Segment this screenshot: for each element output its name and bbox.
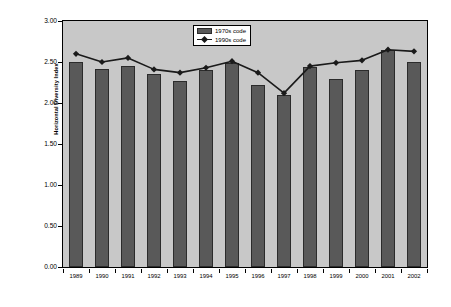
line-marker: 1989: 2.60 [73,51,79,57]
y-tick-label: 2.50 [28,59,57,66]
x-tick-label: 1995 [219,274,245,280]
x-tick-label: 1998 [297,274,323,280]
x-tick-label: 2002 [401,274,427,280]
x-tick-mark [219,269,220,273]
x-tick-mark [349,269,350,273]
x-tick-label: 1997 [271,274,297,280]
line-marker: 2000: 2.52 [359,57,365,63]
line-marker: 1991: 2.55 [125,55,131,61]
line-marker: 1994: 2.43 [203,65,209,71]
x-tick-label: 2001 [375,274,401,280]
x-tick-mark [89,269,90,273]
x-tick-mark [167,269,168,273]
line-marker: 1993: 2.37 [177,70,183,76]
line-marker: 1992: 2.41 [151,66,157,72]
x-tick-mark [271,269,272,273]
x-tick-mark [401,269,402,273]
line-marker: 1995: 2.51 [229,58,235,64]
chart-container: Horizontal Diversity Index 0.000.501.001… [0,0,451,307]
bar-swatch-icon [197,28,212,34]
x-tick-label: 1990 [89,274,115,280]
x-tick-mark [297,269,298,273]
x-tick-label: 1991 [115,274,141,280]
x-tick-label: 1989 [63,274,89,280]
x-tick-mark [245,269,246,273]
x-tick-label: 2000 [349,274,375,280]
chart-legend: 1970s code 1990s code [193,25,251,46]
x-tick-mark [63,269,64,273]
x-tick-mark [427,269,428,273]
y-tick-label: 1.50 [28,141,57,148]
legend-label-1970s-code: 1970s code [215,28,246,34]
y-tick-label: 2.00 [28,100,57,107]
y-tick-label: 3.00 [28,18,57,25]
x-tick-mark [375,269,376,273]
x-tick-label: 1999 [323,274,349,280]
legend-item-1990s-code[interactable]: 1990s code [197,36,246,43]
y-tick-label: 0.50 [28,223,57,230]
x-tick-label: 1996 [245,274,271,280]
line-marker: 2002: 2.63 [411,48,417,54]
line-marker: 1999: 2.49 [333,60,339,66]
x-tick-mark [141,269,142,273]
x-tick-mark [323,269,324,273]
x-tick-mark [115,269,116,273]
y-tick-label: 0.00 [28,264,57,271]
line-marker: 1990: 2.50 [99,59,105,65]
x-tick-label: 1993 [167,274,193,280]
x-tick-label: 1994 [193,274,219,280]
legend-item-1970s-code[interactable]: 1970s code [197,28,246,34]
y-tick-label: 1.00 [28,182,57,189]
plot-area: 1989: 2.601990: 2.501991: 2.551992: 2.41… [62,20,428,268]
legend-label-1990s-code: 1990s code [215,37,246,43]
line-marker: 2001: 2.65 [385,47,391,53]
x-tick-mark [193,269,194,273]
line-marker-swatch-icon [197,36,212,43]
x-tick-label: 1992 [141,274,167,280]
line-series-1990s-code: 1989: 2.601990: 2.501991: 2.551992: 2.41… [63,21,427,267]
